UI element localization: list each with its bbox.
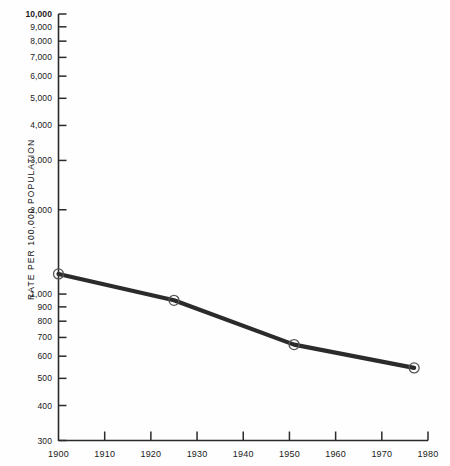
y-tick-label: 800 xyxy=(0,316,52,326)
x-tick-label: 1900 xyxy=(48,449,69,459)
x-tick-label: 1980 xyxy=(418,449,439,459)
x-tick-label: 1920 xyxy=(140,449,161,459)
y-tick-label: 9,000 xyxy=(0,22,52,32)
y-tick-label: 700 xyxy=(0,332,52,342)
y-tick-label: 4,000 xyxy=(0,120,52,130)
x-tick-label: 1950 xyxy=(279,449,300,459)
x-axis-ticks xyxy=(59,432,429,441)
y-tick-label: 5,000 xyxy=(0,93,52,103)
axis-lines xyxy=(59,14,429,441)
y-tick-label: 1,000 xyxy=(0,289,52,299)
x-tick-label: 1910 xyxy=(94,449,115,459)
y-tick-label: 2,000 xyxy=(0,205,52,215)
y-tick-label: 10,000 xyxy=(0,9,52,19)
y-tick-label: 3,000 xyxy=(0,155,52,165)
y-tick-label: 900 xyxy=(0,302,52,312)
line-chart-plot xyxy=(0,0,450,466)
chart-container: RATE PER 100,000 POPULATION 10,0009,0008… xyxy=(0,0,450,466)
x-tick-label: 1940 xyxy=(233,449,254,459)
y-axis-ticks xyxy=(59,14,67,441)
x-tick-label: 1970 xyxy=(371,449,392,459)
y-tick-label: 6,000 xyxy=(0,71,52,81)
y-tick-label: 600 xyxy=(0,351,52,361)
x-tick-label: 1930 xyxy=(187,449,208,459)
y-tick-label: 500 xyxy=(0,373,52,383)
data-line-series xyxy=(59,274,415,368)
x-tick-label: 1960 xyxy=(325,449,346,459)
y-tick-label: 7,000 xyxy=(0,52,52,62)
y-tick-label: 8,000 xyxy=(0,36,52,46)
y-tick-label: 400 xyxy=(0,401,52,411)
y-tick-label: 300 xyxy=(0,436,52,446)
